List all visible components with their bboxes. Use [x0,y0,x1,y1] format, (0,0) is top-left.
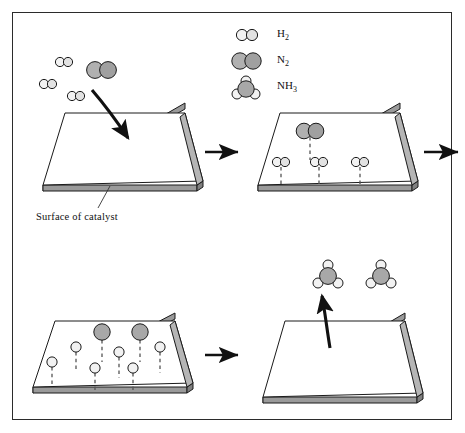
legend-item-n2: N2 [225,48,345,74]
legend-item-nh3: NH3 [225,74,345,100]
molecule-key: H2 N2 [225,22,345,100]
legend-label-n2: N2 [271,54,289,68]
nh3-molecule-icon [225,74,271,100]
catalysis-diagram: H2 N2 [0,0,465,433]
legend-item-h2: H2 [225,22,345,48]
panel-1-free-n2 [87,62,117,79]
panel-1-free-h2-a [55,57,72,66]
panel-2-slab [258,103,418,191]
panel-4-slab [263,313,423,403]
panel-1-free-h2-b [39,79,56,88]
panel-1-slab [43,103,203,191]
h2-molecule-icon [225,22,271,48]
n2-molecule-icon [225,48,271,74]
panel-1-free-h2-c [67,91,84,100]
legend-label-nh3: NH3 [271,80,297,94]
legend-label-h2: H2 [271,28,289,42]
panel-3-slab [33,313,193,393]
panel-4-nh3-b [366,260,396,288]
panel-4-nh3-a [313,260,343,288]
surface-of-catalyst-label: Surface of catalyst [36,211,118,222]
